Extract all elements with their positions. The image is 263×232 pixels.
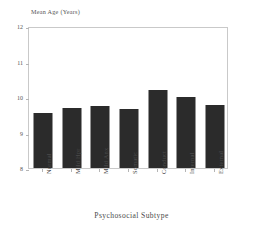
- bar-chart-figure: Mean Age (Years) 89101112 NormalMild Hpr…: [0, 0, 263, 232]
- bar-slot: [86, 28, 115, 168]
- x-tick-mark: [71, 169, 72, 172]
- plot-area: 89101112: [29, 28, 227, 168]
- x-axis-label-mild-hpr: Mild Hpr: [74, 148, 81, 174]
- x-axis-label-somatic: Somatic: [131, 152, 138, 174]
- y-axis-title: Mean Age (Years): [31, 8, 80, 15]
- x-axis-title: Psychosocial Subtype: [0, 211, 263, 220]
- y-tick-label: 12: [17, 24, 23, 30]
- x-tick-mark: [214, 169, 215, 172]
- bar-slot: [200, 28, 229, 168]
- x-axis-label-conduct: Conduct: [160, 151, 167, 174]
- bar-slot: [143, 28, 172, 168]
- x-tick-mark: [42, 169, 43, 172]
- bar-series: [29, 28, 227, 168]
- x-axis-label-mild-anx: Mild Anx: [102, 148, 109, 174]
- y-tick-label: 8: [20, 166, 23, 172]
- y-tick-mark: [26, 170, 29, 171]
- y-tick-label: 11: [17, 60, 23, 66]
- plot-frame: 89101112: [28, 27, 228, 169]
- bar-slot: [115, 28, 144, 168]
- x-tick-mark: [185, 169, 186, 172]
- bar-slot: [58, 28, 87, 168]
- x-tick-mark: [128, 169, 129, 172]
- x-axis-label-normal: Normal: [45, 153, 52, 174]
- x-axis-label-external: External: [217, 151, 224, 174]
- x-axis-label-internal: Internal: [188, 153, 195, 174]
- y-tick-label: 9: [20, 131, 23, 137]
- x-tick-mark: [157, 169, 158, 172]
- bar-slot: [29, 28, 58, 168]
- bar-slot: [172, 28, 201, 168]
- x-tick-mark: [99, 169, 100, 172]
- y-tick-label: 10: [17, 95, 23, 101]
